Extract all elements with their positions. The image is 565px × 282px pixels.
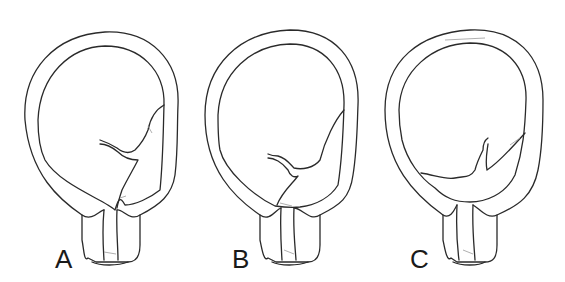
panel-label-b: B [232,246,249,272]
uterus-illustration-a [0,0,190,282]
uterus-illustration-b [190,0,380,282]
panel-c: C [375,0,565,282]
panel-a: A [0,0,190,282]
panel-label-a: A [55,246,72,272]
panel-b: B [190,0,380,282]
uterus-illustration-c [375,0,565,282]
panel-label-c: C [410,246,429,272]
